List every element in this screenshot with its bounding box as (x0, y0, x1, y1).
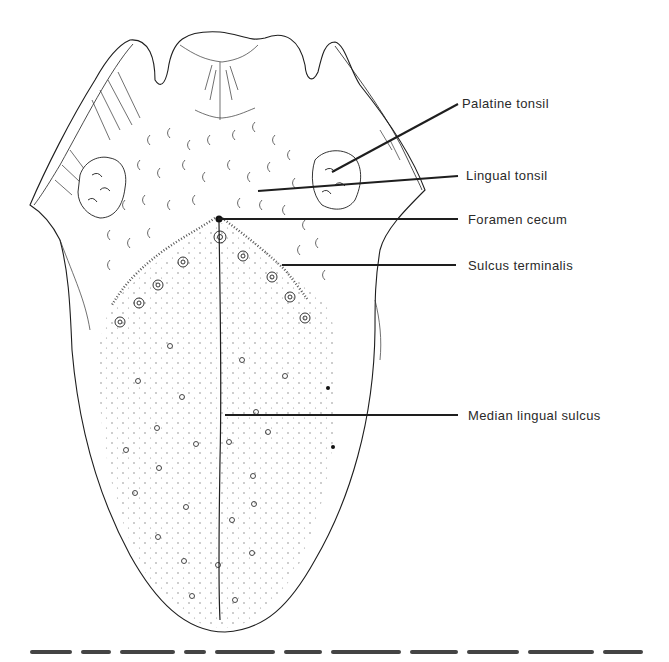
label-lingual-tonsil: Lingual tonsil (466, 169, 548, 182)
papilla-dark (331, 445, 335, 449)
label-sulcus-terminalis: Sulcus terminalis (468, 259, 573, 272)
label-median-lingual-sulcus: Median lingual sulcus (468, 409, 601, 422)
palatine-tonsil-left (78, 157, 126, 218)
papilla-dark (326, 386, 330, 390)
leader-palatine-tonsil (332, 104, 458, 172)
label-palatine-tonsil: Palatine tonsil (462, 97, 549, 110)
figure-caption-cutoff (30, 650, 669, 662)
tongue-diagram (0, 0, 669, 662)
label-foramen-cecum: Foramen cecum (468, 213, 567, 226)
